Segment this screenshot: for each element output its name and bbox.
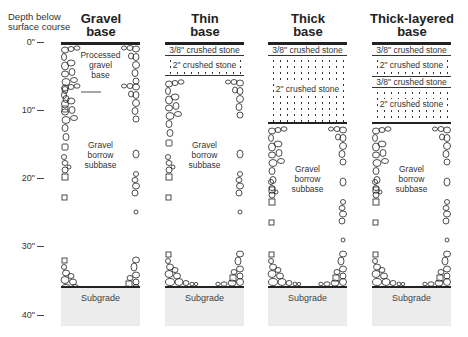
- title-line-2: base: [258, 25, 358, 38]
- label-line: borrow: [61, 150, 140, 160]
- label-line: Processed: [61, 50, 140, 60]
- gravel-borrow-subbase-label: Gravel borrow subbase: [165, 140, 244, 170]
- column-title-thin-base: Thin base: [155, 12, 255, 38]
- subgrade-block: Subgrade: [372, 288, 451, 326]
- title-line-2: base: [51, 25, 151, 38]
- subgrade-block: Subgrade: [61, 288, 140, 326]
- subgrade-block: Subgrade: [165, 288, 244, 326]
- processed-gravel-base-label: Processed gravel base: [61, 50, 140, 80]
- label-line: borrow: [165, 150, 244, 160]
- gravel-borrow-subbase-label: Gravel borrow subbase: [268, 164, 347, 194]
- subgrade-block: Subgrade: [268, 288, 347, 326]
- label-line: Gravel: [165, 140, 244, 150]
- label-line: gravel: [61, 60, 140, 70]
- subgrade-label: Subgrade: [61, 293, 140, 303]
- column-thick-layered-base: 3/8" crushed stone 2" crushed stone 3/8"…: [372, 42, 451, 326]
- gravel-stones-illustration: [61, 42, 140, 326]
- subgrade-label: Subgrade: [165, 293, 244, 303]
- column-thick-base: 3/8" crushed stone 2" crushed stone Grav…: [268, 42, 347, 326]
- column-title-thick-layered-base: Thick-layered base: [362, 12, 462, 38]
- depth-tick-0: 0": [18, 37, 44, 47]
- label-line: subbase: [372, 184, 451, 194]
- column-thin-base: 3/8" crushed stone 2" crushed stone Grav…: [165, 42, 244, 326]
- column-title-gravel-base: Gravel base: [51, 12, 151, 38]
- title-line-2: base: [362, 25, 462, 38]
- label-line: borrow: [372, 174, 451, 184]
- label-line: base: [61, 70, 140, 80]
- gravel-stones-illustration: [165, 42, 244, 326]
- column-title-thick-base: Thick base: [258, 12, 358, 38]
- title-line-2: base: [155, 25, 255, 38]
- gravel-borrow-subbase-label: Gravel borrow subbase: [372, 164, 451, 194]
- label-line: borrow: [268, 174, 347, 184]
- depth-tick-30: 30": [18, 241, 44, 251]
- label-line: Gravel: [61, 140, 140, 150]
- subgrade-label: Subgrade: [372, 293, 451, 303]
- label-line: subbase: [165, 160, 244, 170]
- subgrade-label: Subgrade: [268, 293, 347, 303]
- gravel-borrow-subbase-label: Gravel borrow subbase: [61, 140, 140, 170]
- column-gravel-base: Processed gravel base Gravel borrow subb…: [61, 42, 140, 326]
- label-line: Gravel: [372, 164, 451, 174]
- depth-tick-40: 40": [18, 310, 44, 320]
- label-line: Gravel: [268, 164, 347, 174]
- depth-tick-10: 10": [18, 105, 44, 115]
- label-line: subbase: [61, 160, 140, 170]
- depth-tick-20: 20": [18, 173, 44, 183]
- label-line: subbase: [268, 184, 347, 194]
